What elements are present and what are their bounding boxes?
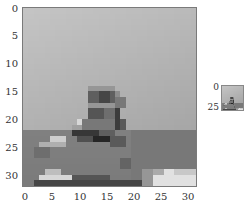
x-tick-label: 25 bbox=[153, 192, 169, 202]
x-tick-label: 20 bbox=[126, 192, 142, 202]
x-tick-label: 5 bbox=[44, 192, 60, 202]
y-tick-label: 10 bbox=[2, 59, 18, 69]
x-tick-label: 10 bbox=[72, 192, 88, 202]
thumbnail-axes bbox=[221, 85, 244, 111]
y-tick-label: 25 bbox=[2, 143, 18, 153]
x-tick-label: 15 bbox=[99, 192, 115, 202]
y-tick-label: 20 bbox=[2, 115, 18, 125]
thumbnail-y-tick-label: 25 bbox=[205, 103, 219, 112]
thumbnail-pixel-grid bbox=[222, 86, 243, 110]
main-image-axes bbox=[22, 7, 197, 187]
y-tick-label: 15 bbox=[2, 87, 18, 97]
x-tick-label: 0 bbox=[17, 192, 33, 202]
y-tick-label: 30 bbox=[2, 171, 18, 181]
y-tick-label: 0 bbox=[2, 4, 18, 14]
main-pixel-grid bbox=[23, 8, 196, 186]
y-tick-label: 5 bbox=[2, 31, 18, 41]
pixel bbox=[242, 109, 243, 110]
x-tick-label: 30 bbox=[180, 192, 196, 202]
thumbnail-y-tick-label: 0 bbox=[205, 83, 219, 92]
pixel bbox=[191, 180, 196, 186]
